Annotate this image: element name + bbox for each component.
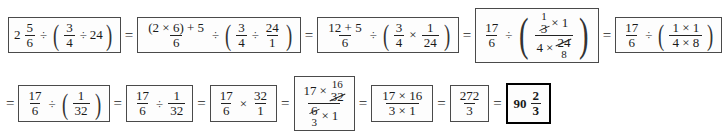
- step8-right-fraction: 32 1: [252, 89, 269, 118]
- step2-inner-operator-divide: ÷: [252, 27, 259, 43]
- step-box-7: 17 6 ÷ 1 32: [126, 85, 193, 122]
- step2-a-numerator: 3: [236, 21, 247, 35]
- step5-operator-divide: ÷: [645, 27, 652, 43]
- step-box-10: 17 × 16 3 × 1: [371, 85, 433, 122]
- step1-fraction: 5 6: [25, 21, 36, 50]
- equals-sign-3: =: [463, 28, 471, 43]
- paren-close-icon: ): [579, 20, 589, 50]
- step4-denominator-operator-multiply: ×: [546, 41, 553, 55]
- step6-inner-fraction: 1 32: [73, 89, 90, 118]
- step1-whole: 2: [14, 27, 21, 43]
- step3-operator-divide: ÷: [370, 27, 377, 43]
- step8-left-fraction: 17 6: [218, 89, 235, 118]
- equals-sign-5: =: [6, 96, 14, 111]
- equals-sign-9: =: [359, 96, 367, 111]
- step4-paren-group: ( 1 3 × 1 4 × 24: [515, 11, 593, 60]
- step-box-6: 17 6 ÷ ( 1 32 ): [18, 85, 109, 122]
- step3-b-numerator: 1: [425, 21, 436, 35]
- step1-inner-numerator: 3: [64, 21, 75, 35]
- step1-inner-value: 24: [90, 27, 103, 43]
- solution-row-2: = 17 6 ÷ ( 1 32 ) = 17 6 ÷: [0, 70, 579, 137]
- step6-left-fraction: 17 6: [26, 89, 43, 118]
- step2-left-numerator: (2 × 6) + 5: [145, 21, 207, 35]
- step7-left-denominator: 6: [137, 103, 148, 118]
- paren-open-icon: (: [53, 24, 59, 46]
- step-box-1: 2 5 6 ÷ ( 3 4 ÷ 24 ): [8, 17, 121, 54]
- step9-numerator-first: 17: [304, 84, 317, 98]
- step9-numerator-cancellation: 16 32: [330, 79, 345, 103]
- step3-fraction-a: 3 4: [394, 21, 405, 50]
- step1-inner-fraction: 3 4: [64, 21, 75, 50]
- step7-right-fraction: 1 32: [168, 89, 185, 118]
- step11-numerator: 272: [458, 89, 482, 103]
- step5-inner-denominator: 4 × 8: [669, 35, 702, 50]
- paren-close-icon: ): [707, 24, 713, 46]
- equals-sign-10: =: [437, 96, 445, 111]
- step9-numerator-group: 17 × 16 32: [302, 79, 347, 103]
- final-answer-whole: 90: [514, 96, 527, 112]
- step5-inner-numerator: 1 × 1: [669, 21, 702, 35]
- step2-fraction-b: 24 1: [264, 21, 281, 50]
- step4-numerator-cancellation: 1 3: [540, 11, 549, 35]
- paren-close-icon: ): [95, 93, 101, 115]
- step10-fraction: 17 × 16 3 × 1: [379, 89, 425, 118]
- step-box-8: 17 6 × 32 1: [210, 85, 277, 122]
- equals-sign-7: =: [197, 96, 205, 111]
- step3-left-fraction: 12 + 5 6: [325, 21, 364, 50]
- step2-b-denominator: 1: [267, 35, 278, 50]
- step8-right-numerator: 32: [252, 89, 269, 103]
- step4-denominator-cancelled: 24: [556, 36, 571, 49]
- step5-paren-group: ( 1 × 1 4 × 8 ): [655, 21, 716, 50]
- step-box-3: 12 + 5 6 ÷ ( 3 4 × 1 24 ): [317, 17, 458, 54]
- step3-left-denominator: 6: [339, 35, 352, 50]
- step4-left-denominator: 6: [486, 35, 497, 50]
- step9-denominator-group: 6 3 × 1: [308, 103, 340, 128]
- step4-numerator-other: 1: [562, 16, 569, 30]
- step1-denominator: 6: [25, 35, 36, 50]
- paren-open-icon: (: [225, 24, 231, 46]
- step5-left-fraction: 17 6: [623, 21, 640, 50]
- step2-paren-group: ( 3 4 ÷ 24 1 ): [222, 21, 295, 50]
- step3-inner-operator-multiply: ×: [409, 27, 416, 43]
- step7-operator-divide: ÷: [156, 96, 163, 112]
- paren-close-icon: ): [444, 24, 450, 46]
- equals-sign-1: =: [125, 28, 133, 43]
- step3-fraction-b: 1 24: [422, 21, 439, 50]
- final-answer-numerator: 2: [531, 89, 542, 103]
- step10-denominator: 3 × 1: [386, 103, 419, 118]
- step6-inner-denominator: 32: [73, 103, 90, 118]
- step7-left-numerator: 17: [134, 89, 151, 103]
- step1-operator-divide: ÷: [40, 27, 47, 43]
- step7-left-fraction: 17 6: [134, 89, 151, 118]
- step11-denominator: 3: [464, 103, 475, 118]
- step3-a-numerator: 3: [394, 21, 405, 35]
- step9-numerator-cancelled: 32: [330, 90, 345, 103]
- step3-paren-group: ( 3 4 × 1 24 ): [380, 21, 453, 50]
- step-box-2: (2 × 6) + 5 6 ÷ ( 3 4 ÷ 24 1 ): [137, 17, 301, 54]
- step10-numerator: 17 × 16: [379, 89, 425, 103]
- step4-denominator-cancellation: 24 8: [556, 36, 571, 60]
- step9-numerator-operator-multiply: ×: [320, 84, 327, 98]
- step9-cancel-fraction: 17 × 16 32 6 3 × 1: [302, 79, 347, 128]
- step1-numerator: 5: [25, 21, 36, 35]
- step-box-11: 272 3: [450, 85, 490, 122]
- step9-denominator-cancelled: 6: [310, 104, 319, 117]
- step9-denominator-other: 1: [332, 109, 339, 123]
- paren-open-icon: (: [62, 93, 68, 115]
- final-answer-fraction: 2 3: [531, 89, 542, 118]
- equals-sign-6: =: [114, 96, 122, 111]
- step2-left-fraction: (2 × 6) + 5 6: [145, 21, 207, 50]
- step7-right-numerator: 1: [171, 89, 182, 103]
- paren-open-icon: (: [383, 24, 389, 46]
- step9-denominator-replacement: 3: [312, 117, 318, 128]
- step3-b-denominator: 24: [422, 35, 439, 50]
- step2-a-denominator: 4: [236, 35, 247, 50]
- final-answer-box: 90 2 3: [506, 83, 552, 124]
- step6-left-numerator: 17: [26, 89, 43, 103]
- step-box-9: 17 × 16 32 6 3 × 1: [294, 76, 355, 131]
- step5-inner-fraction: 1 × 1 4 × 8: [669, 21, 702, 50]
- step5-left-denominator: 6: [626, 35, 637, 50]
- step1-inner-denominator: 4: [64, 35, 75, 50]
- step4-cancel-fraction: 1 3 × 1 4 × 24 8: [535, 11, 574, 60]
